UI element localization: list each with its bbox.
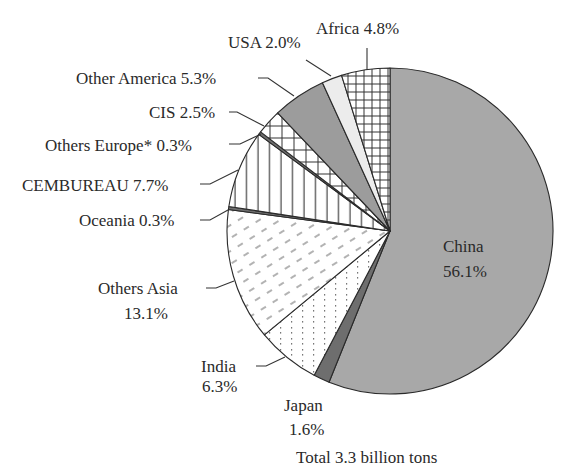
total-caption: Total 3.3 billion tons (296, 448, 437, 467)
label-others-asia-name: Others Asia (98, 279, 178, 298)
label-cis: CIS 2.5% (149, 103, 215, 122)
leader-line-india (256, 357, 285, 366)
label-india-pct: 6.3% (202, 377, 237, 396)
leader-line-cembureau (200, 170, 238, 184)
label-cembureau: CEMBUREAU 7.7% (22, 176, 168, 195)
pie-chart: Africa 4.8% USA 2.0% Other America 5.3% … (0, 0, 572, 471)
label-japan-name: Japan (284, 396, 323, 415)
label-india-name: India (201, 357, 236, 376)
leader-line-usa (306, 60, 331, 76)
label-china-name: China (443, 237, 484, 256)
label-other-america: Other America 5.3% (76, 69, 216, 88)
pie-slices (227, 68, 553, 394)
leader-line-oceania (200, 210, 228, 220)
label-africa: Africa 4.8% (316, 19, 399, 38)
leader-line-other-america (258, 78, 294, 96)
leader-line-others-asia (206, 281, 234, 288)
label-others-europe: Others Europe* 0.3% (45, 136, 192, 155)
label-others-asia-pct: 13.1% (124, 304, 168, 323)
leader-line-cis (229, 112, 264, 126)
pie-chart-svg: Africa 4.8% USA 2.0% Other America 5.3% … (0, 0, 572, 471)
label-japan-pct: 1.6% (289, 420, 324, 439)
label-oceania: Oceania 0.3% (79, 211, 174, 230)
label-usa: USA 2.0% (228, 33, 301, 52)
label-china-pct: 56.1% (443, 262, 487, 281)
